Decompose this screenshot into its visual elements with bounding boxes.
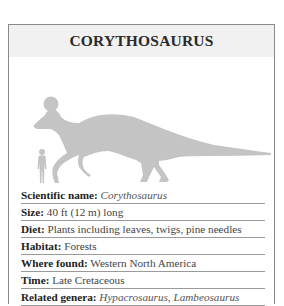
- human-silhouette-icon: [38, 149, 47, 183]
- fact-size: Size: 40 ft (12 m) long: [21, 204, 265, 221]
- fact-card: CORYTHOSAURUS Scientific name: Corythosa…: [8, 24, 275, 304]
- fact-label: Where found:: [21, 257, 88, 269]
- fact-value: Plants including leaves, twigs, pine nee…: [45, 223, 242, 235]
- fact-time: Time: Late Cretaceous: [21, 272, 265, 289]
- fact-label: Diet:: [21, 223, 45, 235]
- fact-value: Corythosaurus: [101, 189, 168, 201]
- fact-where-found: Where found: Western North America: [21, 255, 265, 272]
- fact-label: Scientific name:: [21, 189, 98, 201]
- fact-diet: Diet: Plants including leaves, twigs, pi…: [21, 221, 265, 238]
- fact-label: Size:: [21, 206, 44, 218]
- fact-label: Time:: [21, 274, 49, 286]
- fact-value: 40 ft (12 m) long: [44, 206, 123, 218]
- fact-value: Western North America: [88, 257, 197, 269]
- fact-habitat: Habitat: Forests: [21, 238, 265, 255]
- dinosaur-silhouette-icon: [34, 97, 271, 184]
- fact-label: Habitat:: [21, 240, 61, 252]
- fact-related-genera: Related genera: Hypacrosaurus, Lambeosau…: [21, 289, 265, 306]
- fact-value: Forests: [61, 240, 96, 252]
- facts-list: Scientific name: Corythosaurus Size: 40 …: [21, 187, 265, 306]
- fact-value: Hypacrosaurus, Lambeosaurus: [97, 291, 240, 303]
- size-comparison-illustration: [9, 65, 276, 190]
- card-title: CORYTHOSAURUS: [69, 32, 213, 50]
- card-header: CORYTHOSAURUS: [9, 25, 274, 57]
- fact-scientific-name: Scientific name: Corythosaurus: [21, 187, 265, 204]
- fact-value: Late Cretaceous: [49, 274, 124, 286]
- fact-label: Related genera:: [21, 291, 97, 303]
